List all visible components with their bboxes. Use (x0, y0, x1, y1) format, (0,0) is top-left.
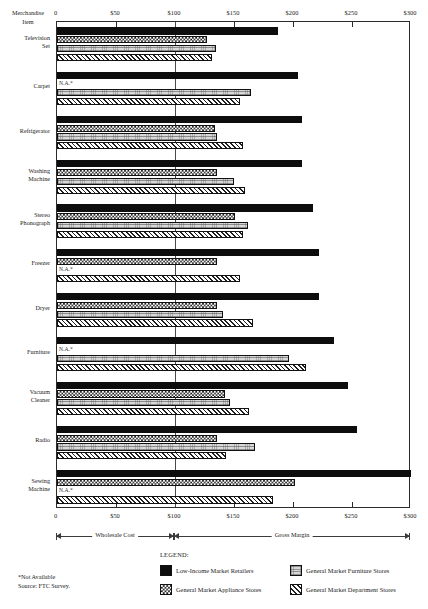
category-label-line: Television (0, 34, 50, 42)
tick-mark-top-200 (293, 22, 294, 27)
legend-item-low: Low-Income Market Retailers (160, 565, 290, 576)
bar (57, 311, 223, 318)
category-label-line: Stereo (0, 211, 50, 219)
legend-label: General Market Furniture Stores (306, 567, 389, 575)
x-tick-top-300: $300 (404, 9, 417, 16)
legend-item-dept: General Market Department Stores (290, 584, 428, 595)
bar (57, 479, 295, 486)
tick-mark-top-150 (234, 22, 235, 27)
category-label-line: Washing (0, 167, 50, 175)
bar (57, 426, 357, 433)
category-label-washing-machine: WashingMachine (0, 167, 50, 183)
na-marker: N.A.* (59, 487, 73, 494)
bar (57, 337, 334, 344)
bar (57, 258, 217, 265)
bar (57, 249, 319, 256)
bar (57, 390, 225, 397)
plot-area: N.A.*N.A.*N.A.*N.A.* (56, 21, 410, 508)
legend-label: Low-Income Market Retailers (176, 567, 253, 575)
category-label-dryer: Dryer (0, 304, 50, 312)
tick-mark-top-250 (352, 22, 353, 27)
category-label-line: Freezer (0, 259, 50, 267)
bar (57, 355, 289, 362)
bar (57, 213, 235, 220)
bar (57, 187, 245, 194)
wholesale-cost-span-label: Wholesale Cost (92, 531, 138, 538)
legend-item-furn: General Market Furniture Stores (290, 565, 428, 576)
category-label-furniture: Furniture (0, 348, 50, 356)
x-tick-top-150: $150 (227, 9, 240, 16)
tick-mark-bottom-250 (352, 502, 353, 507)
gross-margin-span-cap (409, 533, 410, 540)
legend-items: Low-Income Market RetailersGeneral Marke… (160, 561, 428, 599)
bar (57, 399, 230, 406)
x-tick-top-50: $50 (110, 9, 120, 16)
gross-margin-span-label: Gross Margin (272, 531, 313, 538)
category-label-refrigerator: Refrigerator (0, 127, 50, 135)
x-tick-bottom-250: $250 (345, 512, 358, 519)
legend: LEGEND: Low-Income Market RetailersGener… (160, 551, 428, 599)
bar (57, 382, 348, 389)
category-label-line: Vacuum (0, 388, 50, 396)
legend-swatch-dept-icon (290, 584, 302, 595)
category-label-line: Carpet (0, 82, 50, 90)
bar (57, 160, 302, 167)
bar (57, 169, 217, 176)
na-marker: N.A.* (59, 346, 73, 353)
bar (57, 178, 234, 185)
x-tick-bottom-300: $300 (404, 512, 417, 519)
bar (57, 443, 255, 450)
bar (57, 452, 226, 459)
bar (57, 435, 217, 442)
tick-mark-top-50 (116, 22, 117, 27)
legend-swatch-furn-icon (290, 565, 302, 576)
category-label-freezer: Freezer (0, 259, 50, 267)
category-label-line: Sewing (0, 477, 50, 485)
category-label-line: Furniture (0, 348, 50, 356)
y-axis-title-line2: Item (4, 17, 52, 26)
bar (57, 36, 207, 43)
chart-container: Merchandise Item 0$50$100$150$200$250$30… (0, 0, 428, 609)
legend-item-appl: General Market Appliance Stores (160, 584, 290, 595)
bar (57, 275, 240, 282)
wholesale-cost-span-cap (56, 533, 57, 540)
category-label-sewing-machine: SewingMachine (0, 477, 50, 493)
x-tick-bottom-50: $50 (110, 512, 120, 519)
bar (57, 27, 278, 34)
x-tick-top-250: $250 (345, 9, 358, 16)
na-marker: N.A.* (59, 266, 73, 273)
x-tick-top-0: 0 (54, 9, 57, 16)
y-axis-title-line1: Merchandise (4, 8, 52, 17)
bar (57, 72, 298, 79)
footnote-not-available: *Not Available (18, 573, 70, 582)
category-label-line: Set (0, 42, 50, 50)
na-marker: N.A.* (59, 80, 73, 87)
bar (57, 125, 215, 132)
x-tick-bottom-150: $150 (227, 512, 240, 519)
bar (57, 470, 411, 477)
bar (57, 319, 253, 326)
category-label-radio: Radio (0, 436, 50, 444)
category-label-line: Refrigerator (0, 127, 50, 135)
x-tick-top-100: $100 (168, 9, 181, 16)
category-label-stereo-phonograph: StereoPhonograph (0, 211, 50, 227)
category-label-vacuum-cleaner: VacuumCleaner (0, 388, 50, 404)
category-label-line: Phonograph (0, 219, 50, 227)
bar (57, 231, 243, 238)
x-tick-bottom-100: $100 (168, 512, 181, 519)
gross-margin-span-cap (174, 533, 175, 540)
bar (57, 496, 273, 503)
bar (57, 142, 243, 149)
bar (57, 222, 248, 229)
footnote-source: Source: FTC Survey. (18, 582, 70, 591)
y-axis-title: Merchandise Item (4, 8, 52, 26)
bar (57, 45, 216, 52)
category-label-television-set: TelevisionSet (0, 34, 50, 50)
x-tick-bottom-200: $200 (286, 512, 299, 519)
legend-label: General Market Appliance Stores (176, 586, 261, 594)
category-label-line: Dryer (0, 304, 50, 312)
bar (57, 293, 319, 300)
bar (57, 364, 306, 371)
legend-swatch-low-icon (160, 565, 172, 576)
bar (57, 204, 313, 211)
